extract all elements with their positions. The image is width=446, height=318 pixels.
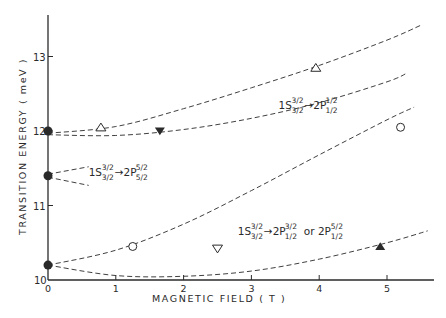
annotation-1s-2p-1-2-part: 1S <box>279 99 293 111</box>
annotation-1s-2p-3-2-or-5-2-part: 1/2 <box>285 232 297 241</box>
annotation-1s-2p-1-2: 1S3/23/2→2P1/21/2 <box>279 96 338 115</box>
annotation-1s-2p-3-2-or-5-2: 1S3/23/2→2P3/21/2or 2P5/21/2 <box>238 222 343 241</box>
annotation-1s-2p-3-2-or-5-2-part: →2P <box>264 225 286 237</box>
x-tick-label: 1 <box>113 283 119 294</box>
annotation-1s-2p-3-2-or-5-2-part: 5/2 <box>331 222 343 231</box>
annotation-1s-2p-5-2-part: 5/2 <box>136 173 148 182</box>
dashed-curve-lower-branch-b <box>48 231 428 277</box>
annotation-1s-2p-5-2: 1S3/23/2→2P5/25/2 <box>89 163 148 182</box>
annotation-1s-2p-1-2-part: →2P <box>305 99 327 111</box>
x-tick-label: 4 <box>316 283 322 294</box>
annotation-1s-2p-1-2-part: 1/2 <box>326 106 338 115</box>
open-triangle-up-marker <box>96 123 106 131</box>
annotation-1s-2p-3-2-or-5-2-part: 1S <box>238 225 252 237</box>
annotation-1s-2p-1-2-part: 3/2 <box>292 106 304 115</box>
y-axis-label: TRANSITION ENERGY ( meV ) <box>17 58 28 236</box>
x-axis-label: MAGNETIC FIELD ( T ) <box>152 293 286 304</box>
annotation-1s-2p-3-2-or-5-2-part: 3/2 <box>251 222 263 231</box>
annotation-1s-2p-5-2-part: 3/2 <box>102 173 114 182</box>
annotation-1s-2p-5-2-part: →2P <box>115 166 137 178</box>
filled-circle-marker <box>44 171 53 180</box>
open-circle-marker <box>129 242 137 250</box>
dashed-curve-middle-branch-b <box>48 177 89 185</box>
transition-energy-plot: 10111213012345MAGNETIC FIELD ( T )TRANSI… <box>0 0 446 318</box>
annotation-1s-2p-5-2-part: 3/2 <box>102 163 114 172</box>
annotation-1s-2p-3-2-or-5-2-part: or 2P <box>304 225 331 237</box>
dashed-curve-upper-branch-a <box>48 25 421 133</box>
y-tick-label: 13 <box>33 52 46 63</box>
filled-circle-marker <box>44 261 53 270</box>
open-circle-marker <box>397 123 405 131</box>
open-triangle-down-marker <box>213 245 223 253</box>
annotation-1s-2p-3-2-or-5-2-part: 1/2 <box>331 232 343 241</box>
x-tick-label: 0 <box>45 283 51 294</box>
annotation-1s-2p-3-2-or-5-2-part: 3/2 <box>285 222 297 231</box>
annotation-1s-2p-3-2-or-5-2-part: 3/2 <box>251 232 263 241</box>
chart-container: 10111213012345MAGNETIC FIELD ( T )TRANSI… <box>0 0 446 318</box>
y-tick-label: 11 <box>33 201 46 212</box>
filled-triangle-down-marker <box>155 127 165 135</box>
annotation-1s-2p-5-2-part: 1S <box>89 166 103 178</box>
x-tick-label: 5 <box>384 283 390 294</box>
dashed-curve-middle-branch-a <box>48 167 89 174</box>
filled-circle-marker <box>44 127 53 136</box>
annotation-1s-2p-5-2-part: 5/2 <box>136 163 148 172</box>
annotation-1s-2p-1-2-part: 3/2 <box>292 96 304 105</box>
annotation-1s-2p-1-2-part: 1/2 <box>326 96 338 105</box>
